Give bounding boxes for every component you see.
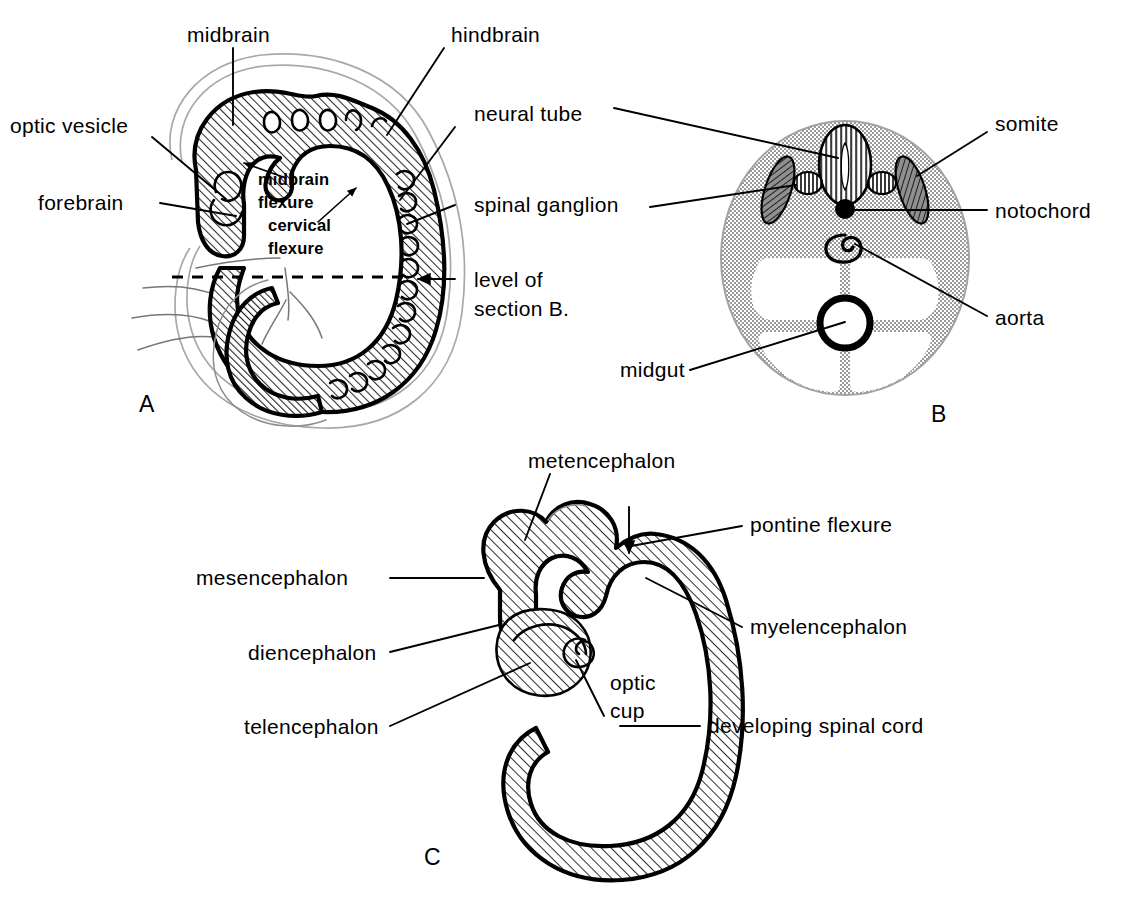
label-pontine-flexure: pontine flexure [750, 513, 892, 536]
panel-letter-b: B [931, 401, 947, 427]
midgut-shape [820, 298, 870, 348]
label-notochord: notochord [995, 199, 1091, 222]
spinal-ganglion-left [794, 172, 822, 194]
label-developing-spinal-cord: developing spinal cord [708, 714, 924, 737]
label-hindbrain: hindbrain [451, 23, 540, 46]
neural-tube-lumen [841, 143, 849, 190]
anatomy-figure: midbrain hindbrain optic vesicle forebra… [0, 0, 1132, 897]
panel-letter-c: C [424, 844, 441, 870]
label-telencephalon: telencephalon [244, 715, 379, 738]
spinal-ganglion-right [868, 172, 896, 194]
notochord-shape [835, 199, 855, 219]
label-midbrain: midbrain [187, 23, 270, 46]
label-forebrain: forebrain [38, 191, 124, 214]
label-metencephalon: metencephalon [528, 449, 676, 472]
label-neural-tube: neural tube [474, 102, 582, 125]
label-midbrain-flexure-line1: midbrain [258, 170, 329, 188]
label-spinal-ganglion: spinal ganglion [474, 193, 619, 216]
panel-letter-a: A [139, 391, 155, 417]
label-optic-cup-line2: cup [610, 699, 645, 722]
label-somite: somite [995, 112, 1059, 135]
label-aorta: aorta [995, 306, 1044, 329]
label-optic-cup-line1: optic [610, 671, 656, 694]
label-level-of-section-line2: section B. [474, 297, 569, 320]
label-myelencephalon: myelencephalon [750, 615, 907, 638]
label-diencephalon: diencephalon [248, 641, 377, 664]
label-optic-vesicle: optic vesicle [10, 114, 128, 137]
label-cervical-flexure-line2: flexure [268, 239, 324, 257]
label-cervical-flexure-line1: cervical [268, 216, 331, 234]
label-midgut: midgut [620, 358, 685, 381]
figure-root: midbrain hindbrain optic vesicle forebra… [0, 0, 1132, 897]
label-level-of-section-line1: level of [474, 268, 543, 291]
label-mesencephalon: mesencephalon [196, 566, 348, 589]
label-midbrain-flexure-line2: flexure [258, 193, 314, 211]
